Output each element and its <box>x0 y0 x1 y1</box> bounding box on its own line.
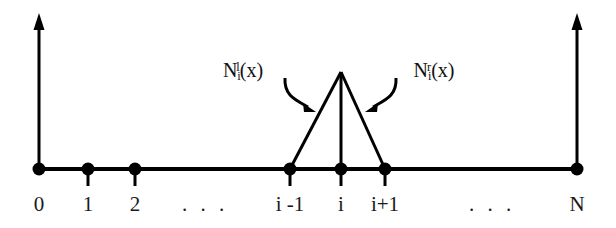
right-basis-function-label: Nir(x) <box>414 60 455 83</box>
node-label-N: N <box>569 194 584 215</box>
left-vertical-axis <box>34 13 45 169</box>
left-basis-function-label: Nil(x) <box>223 60 263 83</box>
right-annotation-arrow <box>365 78 396 112</box>
left-label-argument: (x) <box>240 59 263 81</box>
ellipsis-left: . . . <box>182 194 228 215</box>
right-label-argument: (x) <box>431 59 454 81</box>
right-vertical-axis <box>572 13 583 169</box>
linear-hat-basis-function-diagram: Nil(x) Nir(x) 0 1 2 i -1 i i+1 N . . . .… <box>0 0 616 228</box>
node-label-i: i <box>338 194 344 215</box>
hat-function-triangle <box>290 72 385 169</box>
node-label-0: 0 <box>34 194 45 215</box>
ellipsis-right: . . . <box>469 194 515 215</box>
left-annotation-arrow <box>285 78 316 112</box>
node-label-i-plus-1: i+1 <box>371 194 399 215</box>
node-label-i-minus-1: i -1 <box>276 194 305 215</box>
node-label-1: 1 <box>83 194 94 215</box>
node-label-2: 2 <box>130 194 141 215</box>
